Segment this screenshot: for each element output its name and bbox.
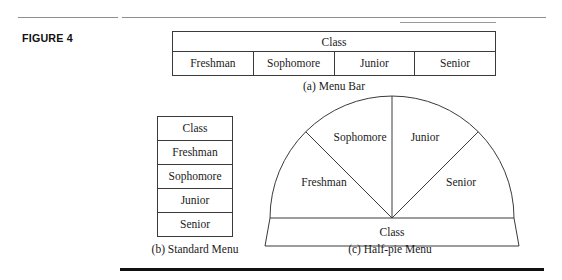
menu-bar-item-sophomore: Sophomore: [254, 52, 335, 75]
caption-standard-menu: (b) Standard Menu: [125, 243, 265, 255]
standard-menu-item-sophomore: Sophomore: [158, 165, 232, 189]
menu-bar-diagram: Class Freshman Sophomore Junior Senior: [172, 31, 496, 76]
standard-menu-item-class: Class: [158, 117, 232, 141]
caption-menu-bar: (a) Menu Bar: [172, 80, 496, 92]
figure-number-label: FIGURE 4: [22, 32, 73, 44]
standard-menu-item-junior: Junior: [158, 189, 232, 213]
half-pie-label-senior: Senior: [446, 176, 476, 188]
figure-page: FIGURE 4 Class Freshman Sophomore Junior…: [0, 0, 562, 280]
standard-menu-item-senior: Senior: [158, 213, 232, 237]
top-rule-right-segment: [122, 17, 546, 18]
half-pie-label-class: Class: [380, 226, 405, 238]
menu-bar-item-freshman: Freshman: [173, 52, 254, 75]
caption-half-pie-menu: (c) Half-pie Menu: [270, 243, 510, 255]
half-pie-menu-diagram: Freshman Sophomore Junior Senior Class: [262, 110, 516, 250]
half-pie-divider-left: [306, 132, 392, 218]
menu-bar-item-junior: Junior: [335, 52, 416, 75]
menu-bar-item-row: Freshman Sophomore Junior Senior: [173, 52, 495, 75]
half-pie-label-junior: Junior: [411, 131, 440, 143]
menu-bar-title-cell: Class: [173, 32, 495, 52]
top-rule-secondary: [400, 22, 496, 23]
standard-menu-diagram: Class Freshman Sophomore Junior Senior: [157, 116, 233, 237]
standard-menu-item-freshman: Freshman: [158, 141, 232, 165]
bottom-rule: [120, 268, 544, 271]
half-pie-divider-right: [392, 132, 478, 218]
half-pie-label-sophomore: Sophomore: [333, 131, 386, 144]
half-pie-label-freshman: Freshman: [301, 176, 347, 188]
top-rule-left-segment: [18, 17, 118, 18]
menu-bar-item-senior: Senior: [415, 52, 495, 75]
